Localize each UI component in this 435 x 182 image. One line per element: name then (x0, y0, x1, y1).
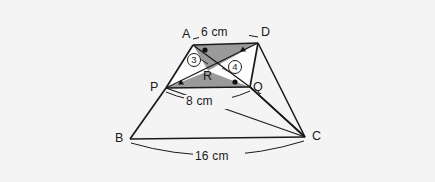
vertex-label-q: Q (253, 81, 263, 94)
measure-label-top: 6 cm (201, 26, 228, 38)
side-ab (130, 45, 193, 139)
measure-label-middle: 8 cm (186, 95, 213, 107)
geometry-figure: A B C D P Q R 6 cm 8 cm 16 cm 3 4 (0, 0, 435, 182)
angle-marker-at-q (232, 79, 237, 84)
region-number-four: 4 (228, 60, 242, 74)
vertex-label-p: P (150, 81, 158, 94)
region-number-three: 3 (187, 53, 201, 67)
segment-pq (166, 87, 250, 88)
measure-label-bottom: 16 cm (195, 150, 229, 162)
vertex-label-c: C (312, 130, 321, 143)
vertex-label-d: D (261, 26, 270, 39)
segment-qc (250, 87, 305, 137)
side-bc (130, 137, 305, 139)
vertex-label-r: R (203, 70, 212, 83)
vertex-label-a: A (182, 28, 190, 41)
vertex-label-b: B (115, 132, 123, 145)
angle-marker-at-a (202, 47, 207, 52)
